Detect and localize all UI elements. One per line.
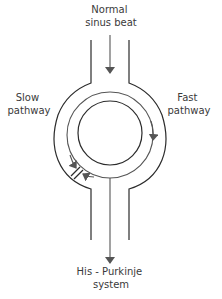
label-normal-line2: sinus beat — [85, 17, 137, 28]
label-his-line2: system — [93, 279, 129, 290]
label-normal-line1: Normal — [91, 4, 127, 15]
fast-pathway-arrow — [151, 121, 153, 140]
label-normal-sinus-beat: Normal sinus beat — [85, 4, 137, 28]
outer-outline-right — [129, 40, 166, 240]
label-slow-line1: Slow — [16, 92, 39, 103]
label-his-purkinje-system: His - Purkinje system — [77, 266, 146, 290]
label-his-line1: His - Purkinje — [77, 266, 143, 277]
label-fast-pathway: Fast pathway — [168, 92, 211, 116]
av-reentry-diagram: Normal sinus beat Slow pathway Fast path… — [0, 0, 222, 299]
label-fast-line2: pathway — [168, 105, 211, 116]
label-slow-pathway: Slow pathway — [8, 92, 51, 116]
inner-core-circle — [78, 101, 142, 165]
label-fast-line1: Fast — [177, 92, 197, 103]
outer-outline-left — [54, 40, 91, 240]
label-slow-line2: pathway — [8, 105, 51, 116]
